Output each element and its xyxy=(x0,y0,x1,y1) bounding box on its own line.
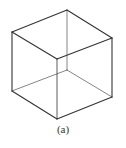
edge-back-left xyxy=(12,70,67,91)
edge-bottom-front-left xyxy=(12,91,57,119)
edge-back-right xyxy=(67,70,112,97)
edge-top-back-right xyxy=(67,10,112,38)
edge-top-front-right xyxy=(57,38,112,59)
figure-caption: (a) xyxy=(0,123,126,135)
edge-top-front-left xyxy=(12,32,57,59)
edge-top-back-left xyxy=(12,10,67,32)
edge-bottom-front-right xyxy=(57,97,112,119)
